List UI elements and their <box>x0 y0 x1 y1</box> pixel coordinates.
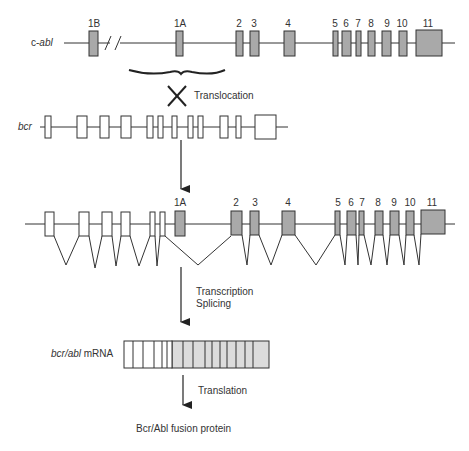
fusion-gene <box>25 210 455 268</box>
fusion-label-8: 8 <box>375 198 381 208</box>
exon-label-9: 9 <box>384 19 390 29</box>
exon-label-6: 6 <box>343 19 349 29</box>
exon-3 <box>250 31 259 56</box>
exon-7 <box>356 31 361 56</box>
exon-label-11: 11 <box>423 19 433 29</box>
fusion-label-11: 11 <box>427 198 437 208</box>
mrna-bar <box>124 341 269 368</box>
exon-label-3: 3 <box>251 19 257 29</box>
exon-2 <box>236 31 243 56</box>
exon-label-4: 4 <box>285 19 291 29</box>
splicing-label: Splicing <box>196 299 231 309</box>
translocation-x-icon <box>168 86 186 106</box>
bcr-label: bcr <box>18 122 32 132</box>
fusion-label-10: 10 <box>404 198 415 208</box>
translation-label: Translation <box>198 386 247 396</box>
exon-label-5: 5 <box>332 19 338 29</box>
exon-label-10: 10 <box>396 19 407 29</box>
fusion-label-1A: 1A <box>174 198 186 208</box>
protein-label: Bcr/Abl fusion protein <box>136 424 231 434</box>
fusion-label-6: 6 <box>348 198 354 208</box>
exon-label-1B: 1B <box>88 19 100 29</box>
exon-8 <box>368 31 375 56</box>
translocation-label: Translocation <box>194 91 254 101</box>
exon-label-8: 8 <box>368 19 374 29</box>
bcr-gene <box>40 115 288 139</box>
exon-6 <box>342 31 351 56</box>
breakpoint-brace <box>129 70 225 74</box>
exon-label-7: 7 <box>355 19 361 29</box>
fusion-label-3: 3 <box>252 198 258 208</box>
exon-1B <box>89 31 98 56</box>
exon-1A <box>176 31 183 56</box>
diagram-canvas <box>0 0 469 451</box>
c-abl-label: c-abl <box>31 38 53 48</box>
fusion-label-9: 9 <box>391 198 397 208</box>
fusion-label-2: 2 <box>233 198 239 208</box>
c-abl-gene <box>64 30 455 56</box>
transcription-label: Transcription <box>196 287 253 297</box>
exon-label-2: 2 <box>236 19 242 29</box>
fusion-label-4: 4 <box>285 198 291 208</box>
fusion-label-7: 7 <box>359 198 365 208</box>
exon-label-1A: 1A <box>174 19 186 29</box>
exon-4 <box>284 31 295 56</box>
exon-10 <box>399 31 407 56</box>
exon-9 <box>382 31 391 56</box>
fusion-label-5: 5 <box>335 198 341 208</box>
mrna-label: bcr/abl mRNA <box>51 349 113 359</box>
exon-5 <box>333 31 338 56</box>
exon-11 <box>416 30 442 56</box>
